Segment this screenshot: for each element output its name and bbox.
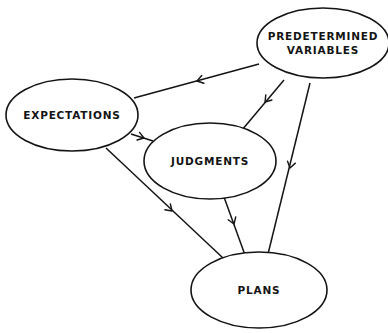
node-label: PLANS [238,284,281,296]
node-label: PREDETERMINED [268,30,379,42]
node-ellipse [257,8,388,78]
node-expectations: EXPECTATIONS [6,79,138,151]
edge-judgments-to-plans [224,197,245,255]
node-predetermined: PREDETERMINEDVARIABLES [257,8,388,78]
edge-line [224,197,245,255]
nodes-layer: PREDETERMINEDVARIABLESEXPECTATIONSJUDGME… [6,8,388,328]
node-label: VARIABLES [287,44,359,56]
node-label: JUDGMENTS [170,155,249,167]
node-plans: PLANS [191,252,327,328]
node-label: EXPECTATIONS [23,109,120,121]
causal-diagram: PREDETERMINEDVARIABLESEXPECTATIONSJUDGME… [0,0,388,333]
edge-expectations-to-judgments [131,132,153,141]
edge-predetermined-to-expectations [134,64,259,98]
node-judgments: JUDGMENTS [144,123,276,199]
edge-predetermined-to-judgments [242,80,284,130]
edge-line [242,80,284,130]
